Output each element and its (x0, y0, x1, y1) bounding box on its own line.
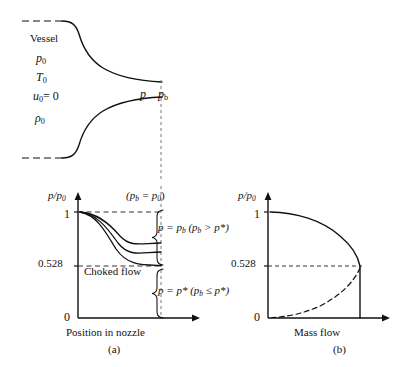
chart-a-x-axis-arrow (192, 315, 200, 322)
chart-a-caption: (a) (108, 344, 120, 355)
pb-subscript: b (164, 93, 168, 102)
nozzle-bottom-wall (62, 97, 162, 158)
chart-a-annotation-choked: p = p* (pb ≤ p*) (158, 285, 229, 297)
ann2-t2: ≤ p*) (203, 284, 229, 296)
ann1-t2: (p (186, 221, 198, 233)
figure-canvas: Vessel p0 T0 u0= 0 ρ0 p pb p/p0 1 0.528 … (0, 0, 412, 367)
chart-b-ytick-0: 0 (254, 311, 260, 323)
chart-a-annotation-subsonic: p = pb (pb > p*) (158, 222, 229, 234)
vessel-label: Vessel (30, 33, 58, 44)
chart-a-ytick-1: 1 (64, 208, 70, 220)
chart-b-curve-mass-flow (270, 212, 360, 318)
p0-subscript: 0 (42, 57, 46, 66)
chart-a-curve-choked (80, 212, 161, 266)
chart-a (74, 186, 200, 321)
ann0-t2: = p (139, 189, 157, 201)
nozzle-exit-pressure-label: p (140, 88, 146, 100)
chart-b-ytick-0528: 0.528 (231, 258, 256, 269)
rho0-label: ρ0 (35, 112, 45, 126)
rho0-subscript: 0 (41, 117, 45, 126)
chart-b-y-axis-arrow (265, 192, 272, 200)
chart-a-ytick-0: 0 (64, 311, 70, 323)
back-pressure-label: pb (158, 88, 168, 102)
chart-a-y-axis-label-sub: 0 (62, 194, 66, 203)
t0-label: T0 (36, 71, 47, 85)
t0-symbol: T (36, 70, 43, 84)
t0-subscript: 0 (43, 76, 47, 85)
chart-a-curve-subsonic-2 (80, 212, 161, 253)
ann2-t1: p = p* (p (158, 284, 199, 296)
ann0-t3: ) (161, 189, 165, 201)
chart-a-annotation-pb-equals-p0: (pb = p0) (126, 190, 165, 202)
chart-a-y-axis-arrow (75, 192, 82, 200)
chart-b (264, 192, 390, 321)
chart-b-ytick-1: 1 (254, 208, 260, 220)
chart-a-choked-flow-note: Choked flow (84, 266, 141, 277)
ann0-t1: (p (126, 189, 135, 201)
chart-b-caption: (b) (333, 344, 346, 355)
u0-label: u0= 0 (33, 90, 59, 104)
chart-b-x-axis-label: Mass flow (294, 327, 340, 338)
ann1-t1: p = p (158, 221, 182, 233)
u0-value: = 0 (43, 89, 59, 103)
chart-b-y-axis-label-sub: 0 (252, 194, 256, 203)
chart-a-y-axis-label-text: p/p (48, 189, 62, 201)
nozzle-top-wall (62, 21, 162, 82)
ann1-t3: > p*) (201, 221, 229, 233)
chart-b-y-axis-label-text: p/p (238, 189, 252, 201)
chart-b-curve-isentropic-dashed (272, 268, 360, 318)
chart-a-ytick-0528: 0.528 (38, 258, 63, 269)
p0-label: p0 (36, 52, 46, 66)
chart-b-x-axis-arrow (382, 315, 390, 322)
chart-a-y-axis-label: p/p0 (48, 190, 66, 202)
chart-b-y-axis-label: p/p0 (238, 190, 256, 202)
figure-svg (0, 0, 412, 367)
chart-a-x-axis-label: Position in nozzle (66, 327, 145, 338)
